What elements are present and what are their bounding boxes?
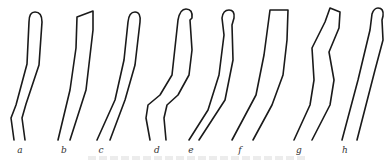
outline-e — [189, 10, 234, 140]
label-c: c — [98, 145, 103, 155]
label-f: f — [238, 145, 241, 155]
outline-h — [342, 8, 383, 140]
outline-a — [11, 12, 42, 140]
label-h: h — [342, 145, 348, 155]
outline-c — [97, 12, 140, 140]
outline-f — [232, 10, 288, 140]
label-e: e — [188, 145, 193, 155]
label-b: b — [61, 145, 67, 155]
figure-caption — [88, 156, 308, 160]
label-a: a — [17, 145, 22, 155]
outline-d — [146, 9, 192, 140]
figure-drawing — [0, 0, 391, 163]
outline-b — [58, 11, 93, 140]
outline-g — [294, 8, 340, 140]
label-g: g — [296, 145, 302, 155]
label-d: d — [154, 145, 160, 155]
